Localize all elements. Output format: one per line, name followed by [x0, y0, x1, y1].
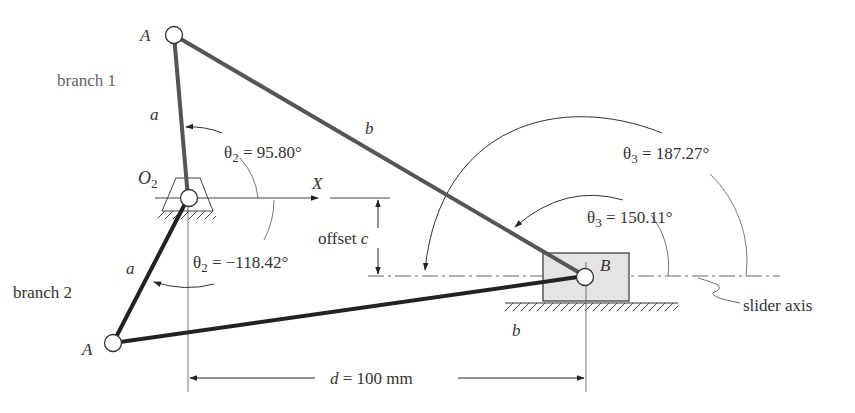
x-axis-label: X	[311, 174, 323, 193]
pin-a-bottom-label: A	[81, 340, 93, 359]
pin-a-top-label: A	[139, 26, 151, 45]
theta3-branch2-arc	[710, 174, 747, 276]
d-dimension-label: d = 100 mm	[330, 369, 413, 388]
theta3-branch2-label: θ3 = 187.27°	[623, 144, 709, 166]
branch2-label: branch 2	[13, 283, 72, 302]
theta2-branch1-label: θ2 = 95.80°	[224, 143, 302, 165]
pin-o2-label: O2	[138, 168, 158, 191]
pin-a-branch1	[166, 27, 183, 44]
branch1-label: branch 1	[57, 71, 116, 90]
link-a-branch2	[113, 198, 188, 343]
theta2-branch1-arc	[240, 158, 258, 198]
offset-label: offset c	[318, 229, 369, 248]
pin-o2	[181, 190, 198, 207]
theta2-branch2-arrow-arc	[154, 282, 214, 288]
slider-ground-hatch	[505, 303, 678, 311]
pin-b	[577, 269, 594, 286]
slider-crank-diagram: branch 1 branch 2 A A O2 B a a b b X off…	[0, 0, 855, 413]
slider-axis-leader	[698, 278, 740, 303]
link-a-branch1	[174, 35, 188, 198]
theta2-branch1-arrow-arc	[186, 127, 222, 133]
link-a-bottom-label: a	[126, 259, 135, 278]
slider-axis-label: slider axis	[743, 296, 812, 315]
theta2-branch2-arc	[264, 200, 274, 240]
link-b-bottom-label: b	[512, 321, 521, 340]
pin-a-branch2	[105, 335, 122, 352]
link-a-top-label: a	[150, 105, 159, 124]
theta3-branch1-label: θ3 = 150.11°	[587, 208, 673, 230]
link-b-top-label: b	[365, 119, 374, 138]
theta3-branch2-arrow-arc	[425, 117, 662, 270]
pin-b-label: B	[600, 256, 611, 275]
diagram-canvas: branch 1 branch 2 A A O2 B a a b b X off…	[0, 0, 855, 413]
theta2-branch2-label: θ2 = −118.42°	[193, 253, 288, 275]
